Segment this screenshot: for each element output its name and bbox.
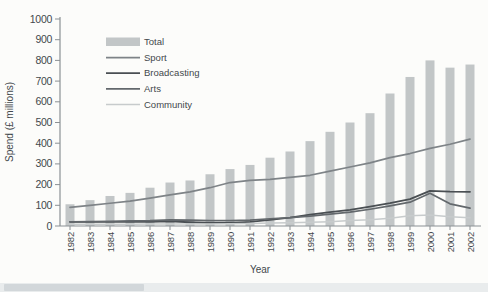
legend-label-broadcasting: Broadcasting bbox=[144, 67, 199, 78]
x-tick-label-1991: 1991 bbox=[245, 232, 256, 252]
chart-svg: 0100200300400500600700800900100019821983… bbox=[0, 0, 488, 292]
x-tick-label-1998: 1998 bbox=[385, 232, 396, 252]
bar-total-2002 bbox=[466, 65, 475, 226]
x-tick-label-1994: 1994 bbox=[305, 232, 316, 252]
y-tick-label-700: 700 bbox=[35, 75, 52, 87]
x-tick-label-1997: 1997 bbox=[365, 232, 376, 252]
bar-total-1992 bbox=[266, 158, 275, 226]
x-tick-label-2000: 2000 bbox=[425, 232, 436, 252]
legend-label-community: Community bbox=[144, 99, 192, 110]
y-tick-label-800: 800 bbox=[35, 54, 52, 66]
bar-total-1994 bbox=[306, 141, 315, 226]
x-tick-label-1999: 1999 bbox=[405, 232, 416, 252]
legend-label-sport: Sport bbox=[144, 52, 167, 63]
y-tick-label-300: 300 bbox=[35, 157, 52, 169]
x-tick-label-2001: 2001 bbox=[445, 232, 456, 252]
bar-total-2000 bbox=[426, 60, 435, 226]
y-tick-label-900: 900 bbox=[35, 33, 52, 45]
x-tick-label-1985: 1985 bbox=[125, 232, 136, 252]
y-tick-label-1000: 1000 bbox=[30, 13, 53, 25]
legend-swatch-total bbox=[106, 38, 140, 47]
x-tick-label-1996: 1996 bbox=[345, 232, 356, 252]
x-tick-label-1984: 1984 bbox=[105, 232, 116, 252]
figure-page: 0100200300400500600700800900100019821983… bbox=[0, 0, 488, 292]
x-tick-label-1992: 1992 bbox=[265, 232, 276, 252]
y-tick-label-200: 200 bbox=[35, 178, 52, 190]
y-tick-label-100: 100 bbox=[35, 199, 52, 211]
x-tick-label-1986: 1986 bbox=[145, 232, 156, 252]
bar-total-1990 bbox=[226, 169, 235, 226]
bar-total-1993 bbox=[286, 151, 295, 226]
y-tick-label-500: 500 bbox=[35, 116, 52, 128]
y-tick-label-0: 0 bbox=[46, 220, 52, 232]
legend-label-arts: Arts bbox=[144, 83, 161, 94]
bar-total-1989 bbox=[206, 174, 215, 226]
x-tick-label-1990: 1990 bbox=[225, 232, 236, 252]
bar-total-1991 bbox=[246, 165, 255, 226]
x-tick-label-2002: 2002 bbox=[465, 232, 476, 252]
x-axis-title: Year bbox=[250, 264, 271, 275]
x-tick-label-1987: 1987 bbox=[165, 232, 176, 252]
y-tick-label-600: 600 bbox=[35, 95, 52, 107]
y-axis-title: Spend (£ millions) bbox=[4, 82, 15, 162]
x-tick-label-1993: 1993 bbox=[285, 232, 296, 252]
x-tick-label-1995: 1995 bbox=[325, 232, 336, 252]
bar-total-1988 bbox=[186, 180, 195, 226]
cropped-caption-text-ghost bbox=[4, 284, 144, 291]
legend-label-total: Total bbox=[144, 36, 164, 47]
x-tick-label-1983: 1983 bbox=[85, 232, 96, 252]
y-tick-label-400: 400 bbox=[35, 137, 52, 149]
x-tick-label-1989: 1989 bbox=[205, 232, 216, 252]
x-tick-label-1982: 1982 bbox=[65, 232, 76, 252]
legend-group: TotalSportBroadcastingArtsCommunity bbox=[106, 36, 199, 109]
x-tick-label-1988: 1988 bbox=[185, 232, 196, 252]
